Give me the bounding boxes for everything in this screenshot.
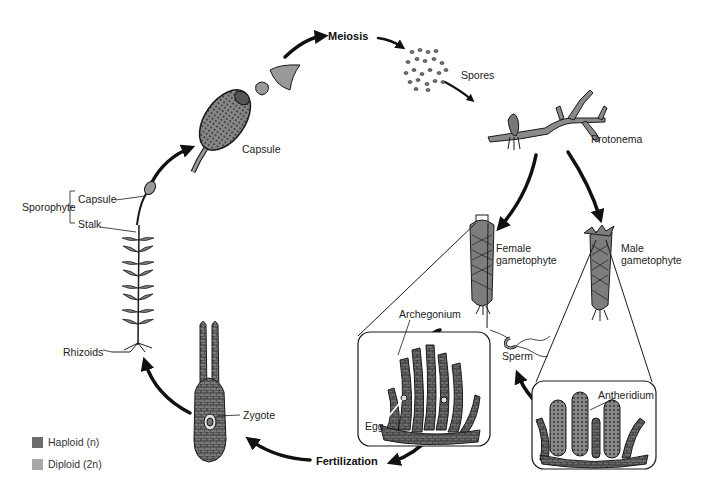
male-gametophyte-label-line2: gametophyte [621,254,682,266]
moss-life-cycle-diagram: Meiosis Capsule Spores Protonema Female … [0,0,702,495]
arrow-fertilization-to-zygote [250,440,310,460]
archegonium-label: Archegonium [399,308,461,320]
haploid-label: Haploid (n) [48,436,99,448]
arrow-capsule-to-meiosis [285,36,323,57]
protonema-label: Protonema [591,133,643,145]
zygote-label: Zygote [243,409,275,421]
legend-item-haploid: Haploid (n) [32,431,102,453]
diploid-swatch [32,459,43,470]
sporophyte-label: Sporophyte [22,201,76,213]
diploid-label: Diploid (2n) [48,458,102,470]
legend-item-diploid: Diploid (2n) [32,453,102,475]
capsule-illustration [189,65,300,172]
arrow-protonema-to-male [568,152,600,218]
arrow-sporophyte-to-capsule [152,148,190,182]
antheridium-label: Antheridium [598,389,654,401]
female-gametophyte-label-line1: Female [496,242,531,254]
arrow-meiosis-to-spores [378,38,402,47]
arrow-zygote-to-sporophyte [145,362,190,413]
capsule-small-label: Capsule [78,193,117,205]
sperm-label: Sperm [502,350,533,362]
arrow-spores-to-protonema [445,82,472,100]
zygote-illustration [194,322,240,463]
egg-label: Egg [365,420,384,432]
spores-illustration [404,49,448,92]
sporophyte-plant-illustration [70,179,158,352]
meiosis-label: Meiosis [328,30,368,42]
fertilization-label: Fertilization [316,455,378,467]
male-gametophyte-label-line1: Male [621,242,644,254]
arrow-protonema-to-female [500,155,536,227]
protonema-illustration [488,90,607,150]
haploid-swatch [32,437,43,448]
capsule-label: Capsule [242,143,281,155]
spores-label: Spores [461,69,494,81]
female-gametophyte-label-line2: gametophyte [496,254,557,266]
stalk-label: Stalk [78,218,102,230]
legend: Haploid (n) Diploid (2n) [32,431,102,475]
rhizoids-label: Rhizoids [63,346,103,358]
